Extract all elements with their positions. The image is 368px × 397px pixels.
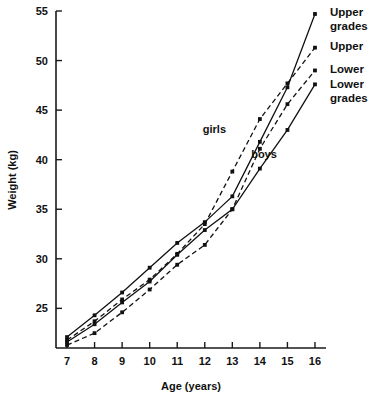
series-label-lower: Lower <box>330 63 364 75</box>
data-point-marker <box>148 266 152 270</box>
data-point-marker <box>230 170 234 174</box>
annotation-girls: girls <box>203 123 226 135</box>
annotation-boys: boys <box>251 148 277 160</box>
x-tick-label: 9 <box>119 355 125 367</box>
data-point-marker <box>93 331 97 335</box>
data-point-marker <box>230 194 234 198</box>
series-label-lower-grades: Lower <box>330 78 364 90</box>
x-axis-title: Age (years) <box>161 380 221 392</box>
y-tick-label: 30 <box>36 253 48 265</box>
data-point-marker <box>258 140 262 144</box>
data-point-marker <box>175 253 179 257</box>
data-point-marker <box>203 228 207 232</box>
x-tick-label: 16 <box>309 355 321 367</box>
data-point-marker <box>120 291 124 295</box>
data-point-marker <box>148 280 152 284</box>
chart-canvas: 25303540455055 Weight (kg) 7891011121314… <box>0 0 368 397</box>
y-tick-label: 55 <box>36 5 48 17</box>
data-point-marker <box>93 322 97 326</box>
series-label-line2: grades <box>330 92 368 104</box>
data-point-marker <box>175 263 179 267</box>
data-point-marker <box>286 128 290 132</box>
y-tick-label: 50 <box>36 55 48 67</box>
data-point-marker <box>258 117 262 121</box>
y-tick-label: 25 <box>36 302 48 314</box>
weight-vs-age-line-chart: 25303540455055 Weight (kg) 7891011121314… <box>0 0 368 397</box>
x-tick-label: 10 <box>144 355 156 367</box>
data-point-marker <box>313 12 317 16</box>
x-tick-label: 15 <box>281 355 293 367</box>
x-tick-label: 12 <box>199 355 211 367</box>
x-tick-label: 11 <box>171 355 183 367</box>
series-label-upper: Upper <box>330 40 364 52</box>
data-point-marker <box>120 310 124 314</box>
data-point-marker <box>286 81 290 85</box>
data-point-marker <box>258 167 262 171</box>
data-point-marker <box>313 69 317 73</box>
y-tick-label: 40 <box>36 154 48 166</box>
data-point-marker <box>230 207 234 211</box>
y-tick-label: 45 <box>36 104 48 116</box>
y-tick-label: 35 <box>36 203 48 215</box>
data-point-marker <box>65 340 69 344</box>
data-point-marker <box>93 313 97 317</box>
data-point-marker <box>286 85 290 89</box>
series-label-line2: grades <box>330 20 368 32</box>
data-point-marker <box>313 82 317 86</box>
data-point-marker <box>120 301 124 305</box>
x-tick-label: 14 <box>254 355 267 367</box>
series-label-upper-grades: Upper <box>330 6 364 18</box>
data-point-marker <box>175 241 179 245</box>
x-tick-label: 7 <box>64 355 70 367</box>
data-point-marker <box>203 243 207 247</box>
data-point-marker <box>313 46 317 50</box>
data-point-marker <box>148 288 152 292</box>
x-tick-label: 8 <box>92 355 98 367</box>
x-tick-label: 13 <box>226 355 238 367</box>
y-axis-title: Weight (kg) <box>6 150 18 210</box>
data-point-marker <box>203 222 207 226</box>
data-point-marker <box>286 102 290 106</box>
